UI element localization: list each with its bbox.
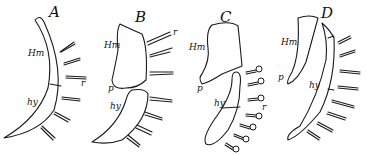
panel-d-drawing [288, 16, 361, 140]
panel-label-b: B [135, 8, 146, 26]
label-p-d: p [278, 72, 284, 82]
panel-c-drawing [200, 23, 264, 152]
panel-label-d: D [321, 4, 333, 22]
figure-drawing [0, 0, 367, 155]
anatomical-figure: A Hm r hy B Hm r p hy C Hm p hy r D Hm p… [0, 0, 367, 155]
label-p-c: p [197, 83, 203, 93]
label-p-b: p [108, 83, 114, 93]
panel-a-drawing [4, 17, 86, 140]
panel-label-a: A [49, 3, 60, 21]
panel-label-c: C [220, 8, 231, 26]
label-hy-b: hy [110, 101, 121, 111]
label-hm-a: Hm [28, 48, 44, 58]
label-r-a: r [81, 78, 85, 88]
label-hm-d: Hm [281, 37, 297, 47]
label-r-c: r [262, 102, 266, 112]
label-r-b: r [173, 27, 177, 37]
label-hy-c: hy [214, 98, 225, 108]
label-hm-b: Hm [104, 40, 120, 50]
label-hm-c: Hm [189, 42, 205, 52]
label-hy-a: hy [27, 97, 38, 107]
label-hy-d: hy [309, 80, 320, 90]
